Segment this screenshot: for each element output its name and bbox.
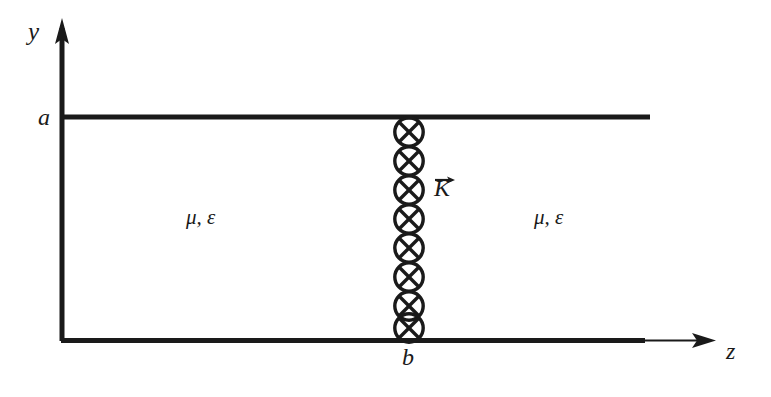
- current-symbol: [395, 118, 423, 146]
- waveguide-diagram: y a z b μ, ε μ, ε K: [0, 0, 771, 397]
- plate-height-label-a: a: [38, 104, 50, 131]
- current-symbol: [395, 205, 423, 233]
- current-symbol: [395, 234, 423, 262]
- medium-label-left: μ, ε: [186, 205, 215, 230]
- sheet-position-label-b: b: [402, 344, 414, 371]
- current-symbol: [395, 314, 423, 342]
- current-symbol: [395, 176, 423, 204]
- vector-k-letter: K: [434, 175, 450, 201]
- surface-current-vector-label: K: [434, 175, 450, 202]
- vector-k-wrapper: K: [434, 175, 450, 202]
- current-symbol: [395, 263, 423, 291]
- y-axis-label: y: [28, 18, 39, 46]
- current-sheet-into-page: [395, 118, 423, 342]
- current-symbol: [395, 147, 423, 175]
- medium-label-right: μ, ε: [534, 205, 563, 230]
- z-axis-label: z: [726, 338, 735, 365]
- diagram-canvas: [0, 0, 771, 397]
